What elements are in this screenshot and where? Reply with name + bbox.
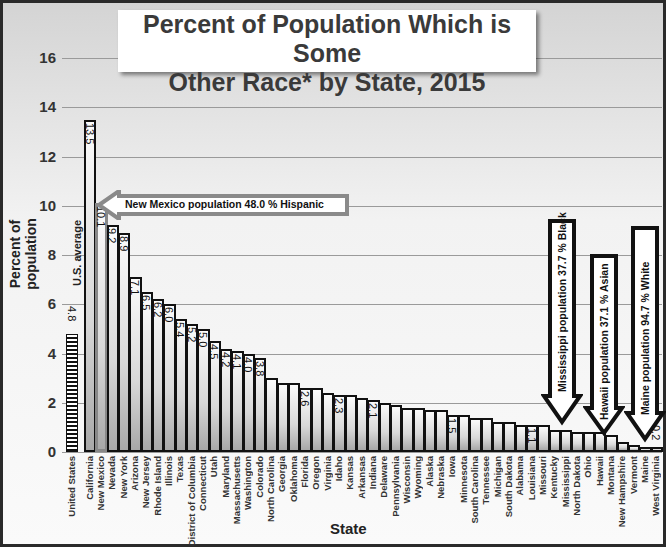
- data-label: 2.3: [333, 398, 345, 413]
- x-tick-label: New Mexico: [95, 456, 106, 510]
- x-tick-label: Missouri: [537, 456, 548, 495]
- x-tick-label: Nebraska: [435, 456, 446, 499]
- x-tick-label: New York: [118, 456, 129, 498]
- new-mexico-annotation: New Mexico population 48.0 % Hispanic: [125, 198, 324, 210]
- x-tick-label: South Dakota: [503, 456, 514, 517]
- x-tick-label: West Virginia: [650, 456, 661, 516]
- x-tick-label: Nevada: [106, 456, 117, 490]
- x-tick-label: Kansas: [344, 456, 355, 490]
- x-axis-title: State: [330, 520, 367, 537]
- x-tick-label: New Jersey: [140, 456, 151, 508]
- chart-title: Percent of Population Which is Some Othe…: [118, 10, 536, 72]
- y-tick-label: 2: [20, 394, 56, 411]
- x-tick-label: Mississippi: [560, 456, 571, 507]
- data-label: 4.0: [242, 357, 254, 372]
- gridline: [62, 107, 662, 108]
- x-tick-label: North Carolina: [265, 456, 276, 522]
- data-label: 6.0: [163, 307, 175, 322]
- data-label: 4.2: [220, 352, 232, 367]
- gridline: [62, 157, 662, 158]
- data-label: 13.5: [84, 123, 96, 144]
- x-tick-label: Maryland: [220, 456, 231, 498]
- x-tick-label: Tennessee: [480, 456, 491, 504]
- x-tick-label: Minnesota: [458, 456, 469, 503]
- bar-united-states: [66, 334, 78, 452]
- chart-title-line-1: Percent of Population Which is Some: [118, 10, 536, 68]
- data-label: 7.1: [129, 280, 141, 295]
- data-label: 2.1: [367, 403, 379, 418]
- data-label: 1.5: [446, 418, 458, 433]
- bar-west-virginia: [651, 447, 663, 452]
- y-axis-title: Percent of population: [7, 189, 39, 319]
- x-tick-label: Arkansas: [356, 456, 367, 499]
- x-tick-label: California: [84, 456, 95, 500]
- x-tick-label: Kentucky: [548, 456, 559, 499]
- x-tick-label: Oklahoma: [288, 456, 299, 502]
- x-tick-label: Georgia: [276, 456, 287, 492]
- data-label: 6.2: [152, 302, 164, 317]
- x-tick-label: Hawaii: [594, 456, 605, 486]
- x-tick-label: Alabama: [514, 456, 525, 496]
- y-tick-label: 14: [20, 98, 56, 115]
- x-tick-label: Florida: [299, 456, 310, 488]
- data-label: 6.5: [140, 295, 152, 310]
- x-tick-label: Colorado: [254, 456, 265, 498]
- x-tick-label: Arizona: [129, 456, 140, 491]
- data-label: 8.9: [118, 236, 130, 251]
- y-tick-label: 0: [20, 443, 56, 460]
- x-tick-label: United States: [66, 456, 77, 517]
- data-label: 4.8: [66, 306, 78, 321]
- data-label: 1.1: [526, 428, 538, 443]
- data-label: 2.6: [299, 391, 311, 406]
- y-tick-label: 16: [20, 49, 56, 66]
- data-label: 3.8: [254, 361, 266, 376]
- x-tick-label: Texas: [174, 456, 185, 482]
- data-label: 9.2: [106, 228, 118, 243]
- data-label: 5.4: [174, 322, 186, 337]
- x-tick-label: Maine: [639, 456, 650, 483]
- x-tick-label: Virginia: [322, 456, 333, 491]
- x-tick-label: Ohio: [582, 456, 593, 478]
- x-tick-label: North Dakota: [571, 456, 582, 516]
- data-label: 4.5: [208, 344, 220, 359]
- x-tick-label: Rhode Island: [152, 456, 163, 516]
- x-tick-label: Alaska: [424, 456, 435, 487]
- x-tick-label: Utah: [208, 456, 219, 477]
- hawaii-annotation: Hawaii population 37.1 % Asian: [598, 263, 610, 420]
- x-tick-label: District of Columbia: [186, 456, 197, 546]
- x-tick-label: Pennsylvania: [390, 456, 401, 517]
- us-average-annotation: U.S. average: [71, 220, 83, 286]
- x-tick-label: Illinois: [163, 456, 174, 486]
- x-tick-label: Delaware: [378, 456, 389, 498]
- x-tick-label: Michigan: [492, 456, 503, 497]
- mississippi-annotation: Mississippi population 37.7 % Black: [556, 212, 568, 392]
- maine-annotation: Maine population 94.7 % White: [639, 262, 651, 415]
- chart-title-line-2: Other Race* by State, 2015: [118, 68, 536, 97]
- x-tick-label: Indiana: [367, 456, 378, 489]
- x-tick-label: Idaho: [333, 456, 344, 481]
- x-tick-label: New Hampshire: [616, 456, 627, 527]
- y-tick-label: 12: [20, 148, 56, 165]
- x-tick-label: Wyoming: [412, 456, 423, 499]
- x-tick-label: Washington: [242, 456, 253, 510]
- x-tick-label: Louisiana: [526, 456, 537, 500]
- x-tick-label: Wisconsin: [401, 456, 412, 503]
- x-tick-label: Massachusetts: [231, 456, 242, 524]
- y-tick-label: 4: [20, 345, 56, 362]
- x-tick-label: South Carolina: [469, 456, 480, 524]
- x-tick-label: Iowa: [446, 456, 457, 477]
- x-tick-label: Montana: [605, 456, 616, 495]
- x-tick-label: Vermont: [628, 456, 639, 494]
- gridline: [62, 452, 662, 453]
- data-label: 5.2: [186, 327, 198, 342]
- x-tick-label: Connecticut: [197, 456, 208, 511]
- x-tick-label: Oregon: [310, 456, 321, 490]
